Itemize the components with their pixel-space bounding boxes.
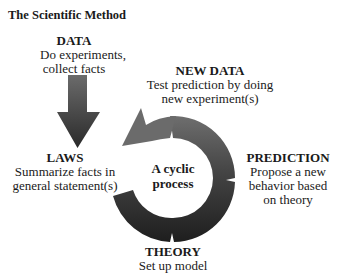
node-theory-heading: THEORY [130, 245, 216, 259]
node-laws-line-1: Summarize facts in [4, 165, 126, 179]
node-laws: LAWS Summarize facts in general statemen… [4, 151, 126, 193]
node-prediction-heading: PREDICTION [240, 151, 336, 165]
node-data-line-1: Do experiments, [40, 48, 108, 62]
node-prediction-line-2: behavior based [240, 179, 336, 193]
node-theory: THEORY Set up model [130, 245, 216, 273]
node-new-data-line-1: Test prediction by doing [130, 78, 290, 92]
node-prediction: PREDICTION Propose a new behavior based … [240, 151, 336, 207]
node-theory-line-1: Set up model [130, 259, 216, 273]
node-data-line-2: collect facts [40, 62, 108, 76]
center-label-line-2: process [133, 176, 213, 191]
node-laws-heading: LAWS [4, 151, 126, 165]
node-laws-line-2: general statement(s) [4, 179, 126, 193]
node-data-heading: DATA [40, 34, 108, 48]
node-new-data: NEW DATA Test prediction by doing new ex… [130, 64, 290, 106]
node-new-data-heading: NEW DATA [130, 64, 290, 78]
node-prediction-line-1: Propose a new [240, 165, 336, 179]
center-label-line-1: A cyclic [133, 161, 213, 176]
cycle-center-label: A cyclic process [133, 161, 213, 191]
down-arrow-icon [57, 75, 100, 148]
node-new-data-line-2: new experiment(s) [130, 92, 290, 106]
node-prediction-line-3: on theory [240, 193, 336, 207]
node-data: DATA Do experiments, collect facts [40, 34, 108, 76]
